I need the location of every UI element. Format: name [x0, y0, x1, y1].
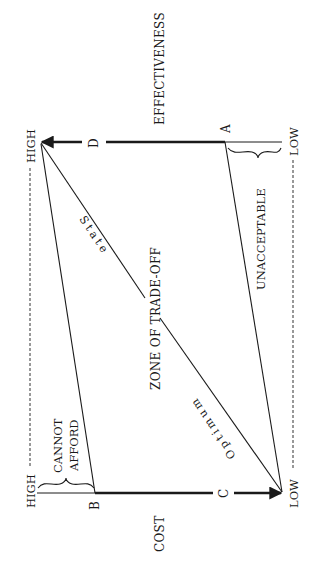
effectiveness-high-label: HIGH — [24, 129, 38, 163]
optimum-label: Optimum — [187, 394, 239, 462]
point-d-label: D — [87, 138, 101, 148]
state-label: State — [77, 213, 113, 257]
cost-axis-label: COST — [153, 516, 167, 552]
zone-of-trade-off-label: ZONE OF TRADE-OFF — [149, 247, 163, 390]
unacceptable-brace — [228, 148, 281, 158]
point-c-label: C — [217, 489, 231, 498]
cannot-afford-brace — [38, 478, 94, 488]
unacceptable-label: UNACCEPTABLE — [254, 188, 268, 290]
cannot-afford-label-line1: CANNOT — [51, 418, 65, 473]
point-b-label: B — [88, 501, 102, 510]
cost-low-label: LOW — [287, 479, 301, 508]
trade-off-diagram: EFFECTIVENESS COST HIGH HIGH LOW LOW A D… — [0, 0, 322, 582]
effectiveness-low-label: LOW — [287, 127, 301, 156]
state-optimum-diagonal-lower — [160, 318, 282, 492]
cost-high-label: HIGH — [24, 474, 38, 508]
point-a-label: A — [219, 124, 233, 134]
cannot-afford-label-line2: AFFORD — [67, 419, 81, 472]
effectiveness-axis-label: EFFECTIVENESS — [153, 12, 167, 125]
